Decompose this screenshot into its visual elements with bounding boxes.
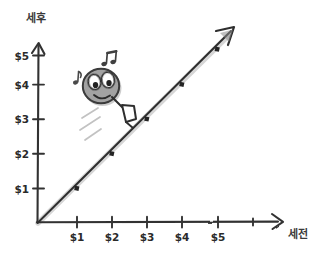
- y-tick-label-2: $2: [14, 148, 29, 160]
- y-tick-label-4: $4: [14, 79, 29, 91]
- sketch-chart-figure: $1 $2 $3 $4 $5 세후 $1 $2 $3 $4 $5 세전: [0, 0, 316, 256]
- chart-canvas: $1 $2 $3 $4 $5 세후 $1 $2 $3 $4 $5 세전: [0, 0, 316, 256]
- x-tick-label-2: $2: [105, 231, 120, 243]
- data-point-1: [74, 186, 79, 191]
- character-pupil-right: [106, 80, 111, 86]
- y-tick-label-5: $5: [14, 50, 29, 62]
- data-point-2: [109, 151, 114, 156]
- x-tick-label-3: $3: [140, 231, 155, 243]
- x-tick-label-4: $4: [175, 231, 190, 243]
- x-tick-label-1: $1: [70, 231, 85, 243]
- x-axis-title: 세전: [288, 227, 308, 241]
- data-point-3: [144, 116, 149, 121]
- y-axis-title: 세후: [26, 11, 46, 25]
- y-tick-label-1: $1: [14, 183, 29, 195]
- data-point-5: [215, 47, 220, 52]
- data-point-4: [179, 82, 184, 87]
- x-tick-label-5: $5: [211, 231, 226, 243]
- y-tick-label-3: $3: [14, 113, 29, 125]
- character-pupil-left: [93, 82, 98, 88]
